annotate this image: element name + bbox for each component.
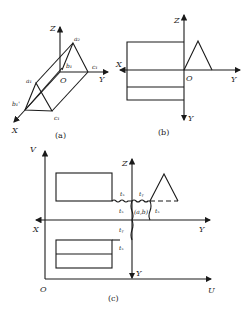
panel-b: Z X O Y Y (b) — [115, 15, 240, 137]
label-y-down-b: Y — [188, 114, 194, 123]
label-u-c: U — [208, 286, 215, 295]
label-o-a: O — [60, 76, 67, 85]
label-ty-top: tᵧ — [139, 190, 144, 197]
label-ty-mid: tᵧ — [119, 226, 124, 233]
label-tx-low: tₓ — [119, 244, 124, 251]
label-z-a: Z — [49, 24, 56, 33]
panel-a: Z Y X O a₂ b₁ c₁ a₁ b₁' c₁ (a) — [11, 24, 108, 140]
label-v-c: V — [30, 145, 37, 154]
label-tx-top: tₓ — [120, 190, 125, 197]
label-o-b: O — [186, 74, 193, 83]
caption-a: (a) — [55, 131, 66, 140]
rect-upper-c — [56, 173, 112, 201]
label-x-b: X — [115, 60, 122, 69]
label-z-b: Z — [173, 16, 180, 25]
rect-front-view — [127, 42, 184, 100]
label-y-right-c: Y — [199, 225, 205, 234]
label-c1-top: c₁ — [92, 63, 98, 70]
label-x-c: X — [32, 225, 39, 234]
label-z-c: Z — [121, 159, 128, 168]
caption-b: (b) — [158, 128, 169, 137]
label-x-a: X — [11, 126, 18, 135]
label-y-right-b: Y — [231, 75, 237, 84]
label-b1-prime: b₁' — [12, 100, 20, 107]
label-b1: b₁ — [66, 62, 72, 69]
label-c1-bottom: c₁ — [54, 114, 60, 121]
label-o-c: O — [40, 285, 47, 294]
diagram-canvas: Z Y X O a₂ b₁ c₁ a₁ b₁' c₁ (a) Z X O Y Y… — [0, 0, 251, 315]
label-tx-left: tₓ — [119, 207, 124, 214]
offset-tx-top — [112, 200, 132, 202]
label-a2: a₂ — [74, 35, 81, 42]
label-y-a: Y — [99, 75, 105, 84]
offset-ty-top — [132, 200, 150, 202]
label-center-ab: (a,b) — [134, 208, 149, 215]
triangle-c — [150, 174, 178, 201]
edge-c — [52, 72, 88, 111]
front-triangle — [25, 83, 52, 111]
label-a1: a₁ — [26, 77, 32, 84]
offset-right-vertical — [149, 201, 151, 220]
triangle-side-view — [184, 41, 212, 70]
caption-c: (c) — [108, 294, 119, 303]
label-tx-right: tₓ — [155, 207, 160, 214]
label-y-down-c: Y — [136, 269, 142, 278]
panel-c: V U O Z X Y Y tₓ tᵧ tₓ tₓ tᵧ tₓ (a,b) (c… — [30, 145, 215, 303]
